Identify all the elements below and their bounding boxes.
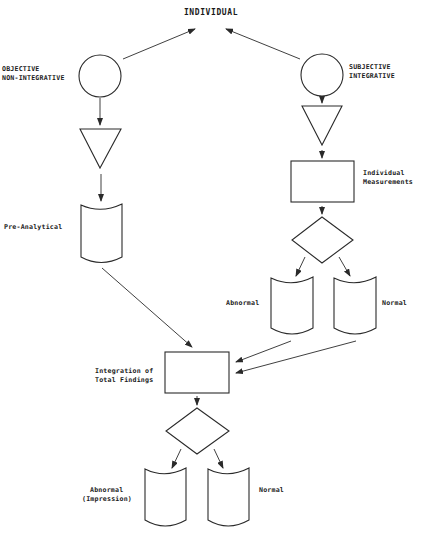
title-individual: INDIVIDUAL — [184, 8, 238, 17]
label-measurements: Measurements — [363, 178, 413, 186]
process-individual-measurements — [291, 161, 354, 202]
label-abnormal-bottom: Abnormal — [90, 486, 123, 494]
decision-diamond-right — [292, 217, 353, 263]
label-non-integrative: NON-INTEGRATIVE — [2, 74, 65, 82]
label-abnormal-right: Abnormal — [226, 299, 259, 307]
label-impression: (Impression) — [82, 495, 132, 503]
arrow-normal-to-integration — [236, 341, 356, 373]
arrow-pre-analytical-to-integration — [102, 268, 192, 347]
document-normal-bottom — [208, 468, 249, 526]
label-individual: Individual — [363, 169, 405, 177]
label-integration-of: Integration of — [95, 367, 153, 375]
merge-triangle-right — [302, 106, 342, 145]
flowchart-diagram: INDIVIDUAL OBJECTIVE NON-INTEGRATIVE Pre… — [0, 0, 426, 535]
document-normal-right — [334, 277, 376, 334]
decision-diamond-bottom — [166, 408, 229, 454]
label-objective: OBJECTIVE — [2, 65, 40, 73]
arrow-decision-to-normal-bottom — [214, 449, 223, 468]
arrow-subjective-to-individual — [226, 29, 300, 59]
arrow-decision-to-abnormal — [296, 257, 305, 276]
merge-triangle-left — [80, 129, 121, 168]
document-pre-analytical — [81, 204, 122, 263]
label-subjective: SUBJECTIVE — [349, 63, 391, 71]
process-integration-total-findings — [165, 352, 229, 393]
label-normal-bottom: Normal — [259, 486, 284, 494]
arrow-objective-to-individual — [123, 29, 195, 59]
label-pre-analytical: Pre-Analytical — [4, 223, 62, 231]
document-abnormal-right — [271, 277, 313, 334]
start-circle-subjective — [301, 54, 343, 96]
document-abnormal-impression — [145, 468, 186, 526]
label-normal-right: Normal — [382, 299, 407, 307]
arrow-decision-to-normal — [339, 257, 350, 276]
arrow-abnormal-to-integration — [236, 341, 291, 362]
start-circle-objective — [79, 55, 121, 97]
arrow-decision-to-abnormal-impression — [172, 449, 181, 468]
label-total-findings: Total Findings — [95, 376, 153, 384]
label-integrative: INTEGRATIVE — [349, 72, 395, 80]
